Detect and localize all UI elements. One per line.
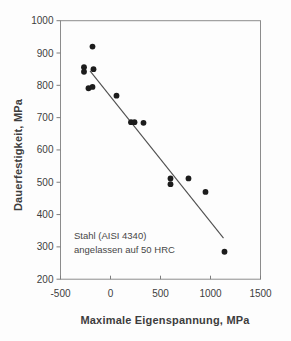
y-tick-label: 900 bbox=[37, 48, 54, 59]
y-tick-label: 1000 bbox=[31, 15, 54, 26]
y-axis-title: Dauerfestigkeit, MPa bbox=[12, 99, 24, 211]
data-point bbox=[90, 44, 96, 50]
annotation-line-1: Stahl (AISI 4340) bbox=[74, 229, 175, 243]
y-tick-label: 300 bbox=[37, 241, 54, 252]
data-point bbox=[222, 249, 228, 255]
x-tick-label: 1000 bbox=[199, 288, 222, 299]
plot-area: 2003004005006007008009001000-50005001000… bbox=[0, 0, 291, 341]
x-tick-label: 500 bbox=[152, 288, 169, 299]
data-point bbox=[132, 119, 138, 125]
annotation-line-2: angelassen auf 50 HRC bbox=[74, 243, 175, 257]
y-tick-label: 400 bbox=[37, 209, 54, 220]
trend-line bbox=[90, 71, 224, 238]
x-tick-label: 0 bbox=[108, 288, 114, 299]
data-point bbox=[168, 181, 174, 187]
data-point bbox=[90, 84, 96, 90]
data-point bbox=[141, 120, 147, 126]
x-tick-label: -500 bbox=[50, 288, 70, 299]
y-tick-label: 800 bbox=[37, 80, 54, 91]
x-axis-title: Maximale Eigenspannung, MPa bbox=[80, 314, 249, 326]
data-point bbox=[114, 93, 120, 99]
scatter-chart-figure: 2003004005006007008009001000-50005001000… bbox=[0, 0, 291, 341]
data-point bbox=[81, 69, 87, 75]
data-point bbox=[203, 189, 209, 195]
y-tick-label: 200 bbox=[37, 274, 54, 285]
y-tick-label: 700 bbox=[37, 112, 54, 123]
x-tick-label: 1500 bbox=[249, 288, 272, 299]
annotation-text: Stahl (AISI 4340) angelassen auf 50 HRC bbox=[74, 229, 175, 256]
data-point bbox=[91, 66, 97, 72]
y-tick-label: 600 bbox=[37, 144, 54, 155]
data-point bbox=[168, 175, 174, 181]
data-point bbox=[186, 175, 192, 181]
y-tick-label: 500 bbox=[37, 177, 54, 188]
